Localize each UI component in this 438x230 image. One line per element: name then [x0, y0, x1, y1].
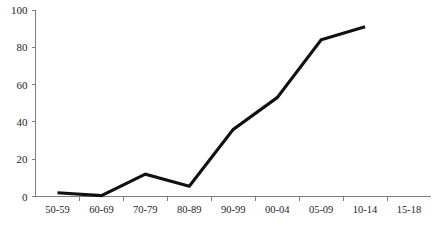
y-axis-group: 020406080100	[11, 4, 36, 203]
x-tick-label: 70-79	[133, 204, 158, 215]
x-tick-label: 50-59	[45, 204, 70, 215]
y-tick-label: 60	[17, 79, 29, 91]
x-axis-tick-labels: 50-5960-6970-7980-8990-9900-0405-0910-14…	[45, 204, 421, 215]
y-axis-ticks	[32, 10, 36, 197]
x-tick-label: 10-14	[353, 204, 378, 215]
x-axis-group: 50-5960-6970-7980-8990-9900-0405-0910-14…	[36, 197, 432, 215]
x-tick-label: 60-69	[89, 204, 114, 215]
y-tick-label: 40	[17, 116, 29, 128]
x-tick-label: 00-04	[265, 204, 290, 215]
x-tick-label: 15-18	[397, 204, 422, 215]
y-tick-label: 100	[11, 4, 28, 16]
x-axis-ticks	[79, 197, 387, 201]
x-tick-label: 05-09	[309, 204, 334, 215]
x-tick-label: 80-89	[177, 204, 202, 215]
x-tick-label: 90-99	[221, 204, 246, 215]
y-tick-label: 20	[17, 153, 29, 165]
data-series-group	[57, 27, 365, 196]
data-line-series-1	[57, 27, 365, 196]
y-axis-tick-labels: 020406080100	[11, 4, 28, 203]
y-tick-label: 0	[22, 191, 28, 203]
chart-canvas: 020406080100 50-5960-6970-7980-8990-9900…	[0, 0, 438, 230]
line-chart: 020406080100 50-5960-6970-7980-8990-9900…	[0, 0, 438, 230]
y-tick-label: 80	[17, 41, 29, 53]
